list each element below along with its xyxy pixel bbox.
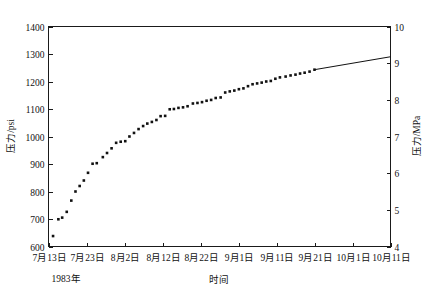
y-tick-label-right: 4 (395, 243, 400, 253)
x-tick-label: 7月13日 (32, 253, 66, 263)
y-tick-label-left: 700 (30, 215, 45, 225)
data-point (260, 81, 263, 84)
data-point (83, 179, 86, 182)
x-tick-label: 8月12日 (146, 253, 180, 263)
y-axis-left-title: 压力/psi (5, 119, 16, 153)
data-point (115, 142, 118, 145)
y-tick-label-right: 8 (395, 96, 400, 106)
y-tick-label-left: 1100 (26, 105, 45, 115)
y-tick-label-right: 7 (395, 133, 400, 143)
data-point (279, 76, 282, 79)
data-point (256, 82, 259, 85)
y-tick-label-left: 1300 (26, 50, 45, 60)
data-point (102, 156, 105, 159)
x-tick-label: 7月23日 (70, 253, 104, 263)
data-point (192, 102, 195, 105)
data-point (224, 91, 227, 94)
x-axis-title: 时间 (209, 274, 229, 285)
x-tick-label: 8月2日 (111, 253, 141, 263)
data-point (133, 132, 136, 135)
data-point (228, 90, 231, 93)
data-point (57, 218, 60, 221)
data-point (289, 74, 292, 77)
y-tick-label-right: 6 (395, 169, 400, 179)
data-point (159, 115, 162, 118)
x-tick-label: 9月1日 (225, 253, 255, 263)
data-point (270, 80, 273, 83)
data-point (196, 102, 199, 105)
y-tick-label-right: 5 (395, 206, 400, 216)
data-point (87, 172, 90, 175)
y-tick-label-left: 900 (30, 160, 45, 170)
data-point (61, 216, 64, 219)
year-note-label: 1983年 (52, 273, 81, 284)
x-tick-label: 9月21日 (298, 253, 332, 263)
y-tick-label-right: 10 (395, 23, 405, 33)
data-point (146, 122, 149, 125)
plot-frame (49, 27, 391, 247)
data-point (173, 108, 176, 111)
data-point (205, 99, 208, 102)
data-point (308, 70, 311, 73)
data-point (177, 107, 180, 110)
data-point (95, 162, 98, 165)
y-tick-label-left: 1000 (26, 133, 45, 143)
y-tick-label-right: 9 (395, 59, 400, 69)
x-tick-label: 8月22日 (184, 253, 218, 263)
data-point (137, 128, 140, 131)
data-point (168, 108, 171, 111)
y-tick-label-left: 1400 (26, 23, 45, 33)
data-point (251, 83, 254, 86)
data-point (110, 147, 113, 150)
data-point (155, 119, 158, 122)
data-point (186, 105, 189, 108)
x-tick-label: 10月11日 (372, 253, 411, 263)
trend-line (315, 57, 391, 70)
y-axis-left-ticks (49, 28, 53, 248)
y-axis-right-ticks (387, 28, 391, 248)
x-axis-labels: 7月13日7月23日8月2日8月12日8月22日9月1日9月11日9月21日10… (32, 253, 410, 263)
y-tick-label-left: 600 (30, 243, 45, 253)
data-point (119, 140, 122, 143)
data-point (106, 152, 109, 155)
data-point (182, 106, 185, 109)
y-axis-right-labels: 45678910 (395, 23, 405, 253)
data-point (299, 72, 302, 75)
data-point (210, 99, 213, 102)
data-point (274, 77, 277, 80)
chart-canvas: 60070080090010001100120013001400 4567891… (0, 0, 432, 290)
data-point (303, 71, 306, 74)
y-tick-label-left: 800 (30, 188, 45, 198)
x-tick-label: 9月11日 (261, 253, 295, 263)
data-point (265, 80, 268, 83)
pressure-vs-time-chart: 60070080090010001100120013001400 4567891… (0, 0, 432, 290)
trend-line-segment (315, 57, 391, 70)
data-point (284, 75, 287, 78)
data-point (151, 121, 154, 124)
data-point-series (52, 68, 316, 237)
data-point (238, 88, 241, 91)
data-point (247, 85, 250, 88)
x-tick-label: 10月1日 (336, 253, 370, 263)
data-point (233, 89, 236, 92)
data-point (242, 87, 245, 90)
data-point (65, 211, 68, 214)
data-point (70, 199, 73, 202)
data-point (52, 235, 55, 238)
data-point (78, 185, 81, 188)
data-point (91, 162, 94, 165)
x-axis-ticks (50, 243, 392, 247)
data-point (142, 125, 145, 128)
data-point (128, 135, 131, 138)
y-axis-left-labels: 60070080090010001100120013001400 (26, 23, 45, 253)
data-point (124, 140, 127, 143)
data-point (219, 96, 222, 99)
y-tick-label-left: 1200 (26, 78, 45, 88)
data-point (164, 115, 167, 118)
data-point (294, 73, 297, 76)
y-axis-right-title: 压力/MPa (411, 115, 422, 156)
data-point (201, 101, 204, 104)
data-point (74, 190, 77, 193)
data-point (214, 97, 217, 100)
